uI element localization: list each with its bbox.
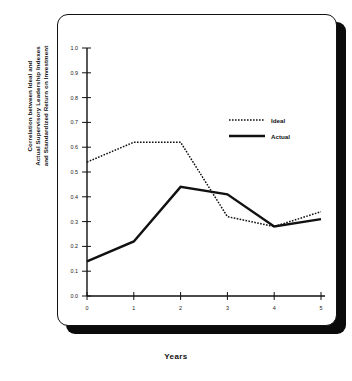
y-tick-label: 0.5 [71,169,79,175]
y-axis-title-text: Correlation between Ideal and Actual Sup… [26,46,51,167]
x-tick-label: 1 [132,305,135,311]
y-tick-label: 0.6 [71,144,79,150]
plot-area: 0.0 0.1 0.2 0.3 0.4 0.5 0.6 0.7 0.8 0.9 … [57,14,337,326]
y-tick-label: 0.4 [71,194,79,200]
y-tick-label: 1.0 [71,45,79,51]
y-tick-label: 0.9 [71,70,79,76]
legend-label-actual: Actual [271,133,290,140]
x-tick-label: 0 [86,305,89,311]
x-tick-label: 4 [273,305,276,311]
y-tick-label: 0.8 [71,95,79,101]
x-tick-label: 3 [226,305,229,311]
y-tick-label: 0.3 [71,219,79,225]
y-tick-label: 0.7 [71,119,79,125]
series-line-ideal [87,142,321,226]
chart-figure: Correlation between Ideal and Actual Sup… [0,0,352,381]
x-tick-label: 5 [320,305,323,311]
y-axis-title: Correlation between Ideal and Actual Sup… [18,6,58,206]
y-tick-label: 0.0 [71,293,79,299]
x-axis-title: Years [0,352,352,361]
y-tick-label: 0.1 [71,268,79,274]
series-line-actual [87,187,321,261]
legend-label-ideal: Ideal [271,117,285,124]
chart-legend: Ideal Actual [229,117,290,140]
x-tick-label: 2 [179,305,182,311]
y-tick-label: 0.2 [71,243,79,249]
